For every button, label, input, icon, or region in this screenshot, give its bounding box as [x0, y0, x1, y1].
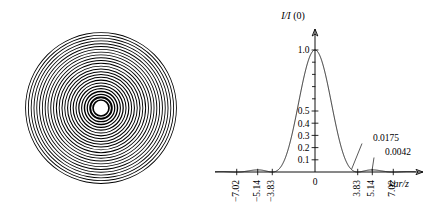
annotation-label: 0.0175	[373, 133, 399, 143]
y-axis-title: I/I (0)	[280, 10, 305, 22]
y-tick-label: 0.5	[298, 106, 310, 116]
x-tick-label: −3.83	[266, 180, 276, 202]
x-axis-title-text: kar/z	[389, 178, 409, 189]
airy-intensity-plot: I/I (0) 0.10.20.30.40.51.0−7.02−5.14−3.8…	[215, 0, 439, 220]
x-tick-label: −7.02	[231, 180, 241, 202]
y-tick-label: 0.4	[298, 119, 310, 129]
x-tick-label: 5.14	[366, 180, 376, 197]
x-tick-label-group: −7.02	[231, 180, 241, 202]
y-tick-label: 0.2	[298, 143, 310, 153]
x-tick-label-group: 0	[313, 177, 318, 187]
airy-ring	[92, 99, 110, 117]
airy-ring	[48, 55, 155, 162]
airy-ring	[28, 35, 174, 181]
x-tick-label: 0	[313, 177, 318, 187]
airy-intensity-plot-panel: I/I (0) 0.10.20.30.40.51.0−7.02−5.14−3.8…	[215, 0, 439, 220]
airy-disk-pattern	[0, 0, 215, 220]
airy-ring	[59, 66, 144, 151]
annotation-leader-line	[352, 144, 362, 170]
x-tick-label: −5.14	[252, 180, 262, 202]
y-tick-label: 0.3	[298, 131, 310, 141]
y-tick-label: 0.1	[298, 155, 310, 165]
x-tick-label-group: −5.14	[252, 180, 262, 202]
annotation-label: 0.0042	[385, 147, 411, 157]
airy-ring	[75, 82, 126, 133]
airy-rings	[25, 32, 177, 184]
airy-diffraction-figure: I/I (0) 0.10.20.30.40.51.0−7.02−5.14−3.8…	[0, 0, 439, 220]
airy-ring	[84, 91, 119, 126]
airy-ring	[31, 38, 172, 179]
y-tick-label: 1.0	[298, 45, 310, 55]
annotation-leader-line	[372, 158, 374, 171]
x-tick-label: 3.83	[352, 180, 362, 197]
x-tick-label-group: 3.83	[352, 180, 362, 197]
airy-ring	[67, 74, 135, 142]
y-axis-title-text: I/I (0)	[280, 10, 305, 22]
airy-ring	[50, 57, 151, 158]
x-tick-label-group: −3.83	[266, 180, 276, 202]
x-tick-label-group: 5.14	[366, 180, 376, 197]
airy-disk-pattern-panel	[0, 0, 215, 220]
airy-ring	[36, 43, 165, 172]
airy-ring	[56, 63, 146, 153]
